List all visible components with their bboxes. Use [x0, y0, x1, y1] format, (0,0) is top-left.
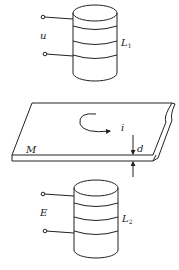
bottom-coil: E L2: [39, 180, 133, 258]
coil-label-l1: L1: [120, 37, 131, 49]
top-coil-winding: [73, 41, 117, 45]
top-coil-bottom-arc: [73, 73, 117, 81]
plate-front-edge: [12, 155, 156, 161]
plate-side-edge: [153, 103, 175, 161]
metal-plate: i M d: [12, 103, 175, 177]
thickness-label-d: d: [137, 143, 143, 154]
bottom-coil-bottom-arc: [74, 250, 118, 258]
emf-label-e: E: [39, 207, 48, 218]
current-label-i: i: [121, 122, 124, 133]
coil-label-l2: L2: [121, 213, 133, 225]
bottom-coil-winding: [74, 231, 118, 235]
bottom-coil-lead-lower: [46, 231, 74, 233]
top-coil-top-ellipse: [73, 5, 117, 21]
induction-diagram: u L1 i M d E L2: [0, 0, 179, 270]
bottom-coil-top-ellipse: [74, 180, 118, 196]
terminal-icon: [41, 15, 45, 19]
eddy-current-arrow-icon: [80, 114, 110, 132]
terminal-icon: [43, 229, 47, 233]
bottom-coil-winding: [74, 203, 118, 207]
bottom-coil-winding: [74, 217, 118, 221]
terminal-icon: [41, 192, 45, 196]
top-coil-lead-lower: [46, 54, 73, 56]
coil-subscript: 2: [129, 218, 133, 225]
coil-subscript: 1: [128, 42, 132, 49]
terminal-icon: [43, 52, 47, 56]
voltage-label-u: u: [40, 30, 46, 41]
top-coil-winding: [73, 55, 117, 59]
bottom-coil-lead-upper: [44, 194, 74, 196]
top-coil: u L1: [40, 5, 131, 81]
top-coil-winding: [73, 26, 117, 30]
top-coil-lead-upper: [44, 17, 73, 19]
plate-label-m: M: [25, 144, 37, 155]
